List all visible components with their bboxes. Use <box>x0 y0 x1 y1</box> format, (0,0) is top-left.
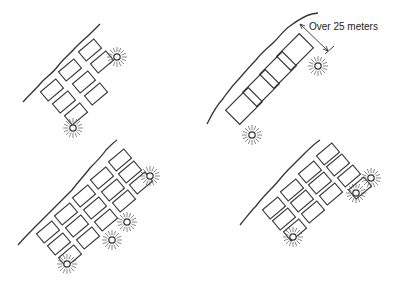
panel-top-left <box>23 24 127 138</box>
light-pole-icon <box>242 125 262 145</box>
light-pole-icon <box>107 47 127 67</box>
light-pole-icon <box>361 168 381 188</box>
light-pole-icon <box>140 166 160 186</box>
panel-bottom-left <box>18 140 160 274</box>
diagram-canvas: Over 25 meters <box>0 0 400 287</box>
curb-line <box>240 140 320 225</box>
panel-bottom-right <box>240 140 381 247</box>
parking-stalls <box>40 39 113 125</box>
light-pole-icon <box>283 227 303 247</box>
light-pole-icon <box>346 183 366 203</box>
dimension-label: Over 25 meters <box>309 21 378 32</box>
light-pole-icon <box>117 212 137 232</box>
light-pole-icon <box>57 254 77 274</box>
panel-top-right <box>207 13 334 145</box>
light-pole-icon <box>308 56 328 76</box>
light-pole-icon <box>102 230 122 250</box>
light-pole-icon <box>63 118 83 138</box>
curb-line <box>207 13 318 124</box>
